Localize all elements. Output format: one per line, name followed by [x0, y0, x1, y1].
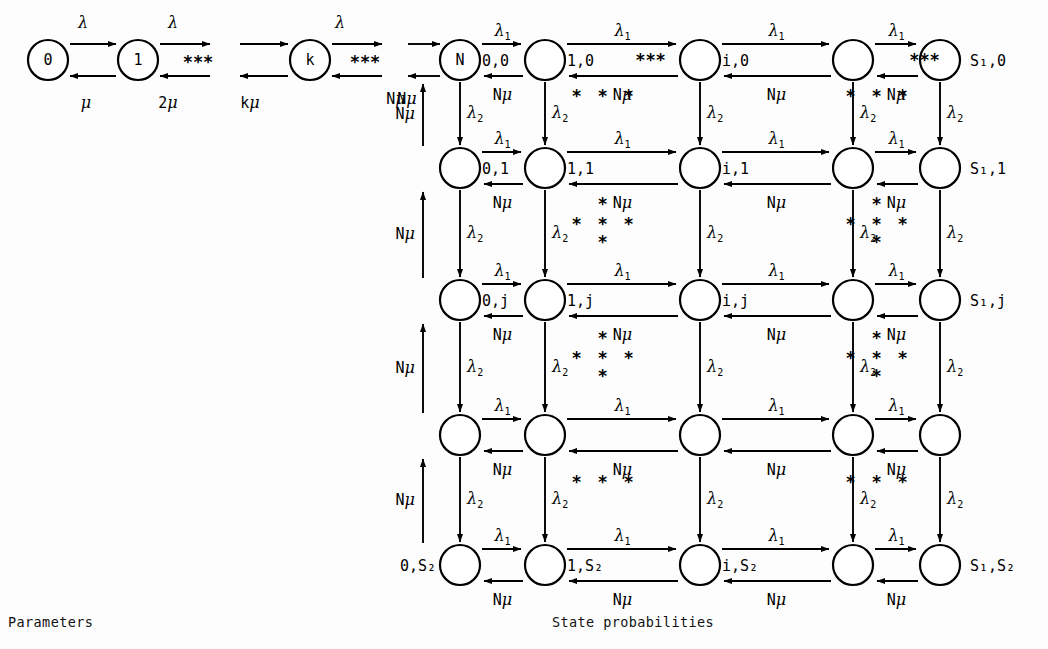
gap-star-h-3-1-2: *: [623, 472, 633, 492]
state-label-left-r2: 0,j: [482, 292, 509, 310]
rate-lambda1-r3-c3: λ1: [887, 396, 904, 417]
gap-star-c-1-1-m0: *: [571, 214, 581, 234]
gap-star-h-3-3-2: *: [897, 472, 907, 492]
gap-star-h-0-3-1: *: [871, 86, 881, 106]
state-label-left-r4: 0,S₂: [400, 557, 436, 575]
caption-state-probabilities: State probabilities: [552, 614, 714, 630]
gap-star-c-2-1-t: *: [597, 328, 607, 348]
rate-nmu-h-r3-c0: Nμ: [493, 460, 512, 479]
gap-star-c-1-1-m1: *: [597, 214, 607, 234]
rate-nmu-h-r2-c1: Nμ: [613, 325, 632, 344]
rate-lambda2-c1-r0: λ2: [551, 103, 568, 124]
state-label-c1-r2: 1,j: [567, 292, 594, 310]
gap-star-c-1-3-m0: *: [845, 214, 855, 234]
rate-lambda2-c0-r0: λ2: [466, 103, 483, 124]
rate-lambda2-c4-r2: λ2: [946, 357, 963, 378]
state-label-right-r4: S₁,S₂: [970, 557, 1015, 575]
rate-lambda1-r1-c0: λ1: [493, 129, 510, 150]
grid-state-node-r3-c0: [440, 415, 480, 455]
grid-state-node-r2-c3: [833, 280, 873, 320]
rate-lambda1-r4-c3: λ1: [887, 526, 904, 547]
rate-lambda2-c3-r3: λ2: [859, 489, 876, 510]
rate-lambda1-r2-c2: λ1: [767, 261, 784, 282]
rate-lambda1-r1-c3: λ1: [887, 129, 904, 150]
rate-lambda2-c0-r3: λ2: [466, 489, 483, 510]
gap-star-c-1-3-m1: *: [871, 214, 881, 234]
gap-star-c-2-3-m0: *: [845, 348, 855, 368]
chain-ellipsis-1: ***: [350, 52, 381, 72]
rate-lambda1-r0-c3: λ1: [887, 21, 904, 42]
rate-lambda2-c4-r0: λ2: [946, 103, 963, 124]
rate-lambda1-r4-c2: λ1: [767, 526, 784, 547]
gap-star-h-3-3-1: *: [871, 472, 881, 492]
rate-lambda2-c1-r2: λ2: [551, 357, 568, 378]
rate-lambda1-r4-c0: λ1: [493, 526, 510, 547]
rate-lambda2-c1-r1: λ2: [551, 223, 568, 244]
gap-star-h-0-1-2: *: [623, 86, 633, 106]
row-ellipsis-r0-c3: ***: [909, 50, 940, 70]
rate-nmu-h-r4-c0: Nμ: [493, 590, 512, 609]
rate-nmu-h-r4-c1: Nμ: [613, 590, 632, 609]
state-label-c1-r0: 1,0: [567, 52, 594, 70]
gap-star-h-0-3-2: *: [897, 86, 907, 106]
state-label-c2-r4: i,S₂: [722, 557, 758, 575]
rate-lambda2-c2-r1: λ2: [706, 223, 723, 244]
gap-star-c-1-1-m2: *: [623, 214, 633, 234]
state-node-label-n0: 0: [43, 51, 52, 69]
gap-star-h-3-1-1: *: [597, 472, 607, 492]
gap-star-c-1-1-b: *: [597, 232, 607, 252]
state-node-label-n1: 1: [133, 51, 142, 69]
rate-lambda2-c4-r3: λ2: [946, 489, 963, 510]
rate-nmu-h-r0-c2: Nμ: [767, 85, 786, 104]
grid-state-node-r4-c4: [920, 545, 960, 585]
rate-lambda1-r3-c2: λ1: [767, 396, 784, 417]
rate-nmu-h-r1-c1: Nμ: [613, 193, 632, 212]
grid-state-node-r1-c1: [525, 148, 565, 188]
rate-nmu-h-r2-c0: Nμ: [493, 325, 512, 344]
grid-state-node-r2-c4: [920, 280, 960, 320]
nodes-layer: 01kN: [28, 40, 960, 585]
rate-nmu-h-r4-c3: Nμ: [887, 590, 906, 609]
gap-star-c-2-1-m0: *: [571, 348, 581, 368]
rate-lambda2-c0-r1: λ2: [466, 223, 483, 244]
chain-ellipsis-0: ***: [183, 52, 214, 72]
grid-state-node-r3-c2: [680, 415, 720, 455]
rate-lambda1-r3-c1: λ1: [613, 396, 630, 417]
rate-lambda2-c1-r3: λ2: [551, 489, 568, 510]
state-label-right-r0: S₁,0: [970, 52, 1006, 70]
rate-lambda-forward-0: λ: [77, 13, 88, 32]
caption-parameters: Parameters: [8, 614, 93, 630]
gap-star-h-3-1-0: *: [571, 472, 581, 492]
rate-lambda2-c4-r1: λ2: [946, 223, 963, 244]
gap-star-c-1-3-b: *: [871, 232, 881, 252]
grid-state-node-r0-c1: [525, 40, 565, 80]
state-label-c1-r1: 1,1: [567, 160, 594, 178]
gap-star-c-2-1-m2: *: [623, 348, 633, 368]
rate-lambda2-c2-r2: λ2: [706, 357, 723, 378]
rate-lambda2-c3-r0: λ2: [859, 103, 876, 124]
rate-lambda2-c2-r0: λ2: [706, 103, 723, 124]
grid-state-node-r0-c3: [833, 40, 873, 80]
rate-lambda2-c2-r3: λ2: [706, 489, 723, 510]
gap-star-h-0-3-0: *: [845, 86, 855, 106]
state-node-label-nk: k: [305, 51, 314, 69]
grid-state-node-r2-c1: [525, 280, 565, 320]
rate-nmu-h-r1-c3: Nμ: [887, 193, 906, 212]
gap-star-h-0-1-1: *: [597, 86, 607, 106]
gap-star-c-2-1-m1: *: [597, 348, 607, 368]
gap-star-h-3-3-0: *: [845, 472, 855, 492]
rate-nmu-return-r2: Nμ: [396, 358, 415, 377]
rate-nmu-entry-return: Nμ: [397, 89, 416, 108]
rate-mu-backward-2: kμ: [240, 93, 259, 112]
state-label-c2-r0: i,0: [722, 52, 749, 70]
grid-state-node-r2-c2: [680, 280, 720, 320]
state-label-c1-r4: 1,S₂: [567, 557, 603, 575]
gap-star-c-1-1-t: *: [597, 194, 607, 214]
grid-state-node-r1-c2: [680, 148, 720, 188]
rate-lambda1-r0-c1: λ1: [613, 21, 630, 42]
grid-state-node-r1-c3: [833, 148, 873, 188]
rate-nmu-h-r3-c2: Nμ: [767, 460, 786, 479]
rate-nmu-return-r3: Nμ: [396, 490, 415, 509]
rate-nmu-h-r2-c3: Nμ: [887, 325, 906, 344]
gap-star-c-2-3-m2: *: [897, 348, 907, 368]
